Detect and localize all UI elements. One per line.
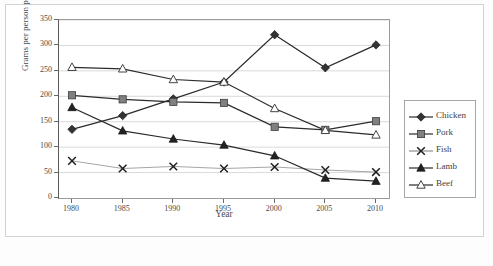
plot-area — [58, 19, 390, 199]
legend-label: Beef — [434, 178, 453, 188]
y-axis-tick-label: 250 — [20, 66, 52, 74]
legend-label: Fish — [434, 144, 452, 154]
y-axis-tick-label: 100 — [20, 142, 52, 150]
open-triangle-icon — [408, 177, 434, 189]
legend-item-fish[interactable]: Fish — [408, 140, 472, 157]
y-axis-tick-label: 300 — [20, 40, 52, 48]
chart-plot-svg — [59, 20, 389, 198]
x-axis-tick-mark — [172, 199, 173, 203]
y-axis-tick-label: 150 — [20, 117, 52, 125]
y-axis-tick-label: 350 — [20, 15, 52, 23]
x-axis-tick-mark — [223, 199, 224, 203]
filled-diamond-icon — [408, 109, 434, 121]
chart-figure: Grams per person per week 05010015020025… — [0, 0, 493, 266]
cross-x-icon — [408, 143, 434, 155]
x-axis-tick-mark — [122, 199, 123, 203]
legend-item-pork[interactable]: Pork — [408, 123, 472, 140]
legend-label: Chicken — [434, 110, 466, 120]
legend-label: Lamb — [434, 161, 457, 171]
filled-triangle-icon — [408, 160, 434, 172]
x-axis-tick-mark — [274, 199, 275, 203]
legend-item-lamb[interactable]: Lamb — [408, 157, 472, 174]
y-axis-tick-label: 0 — [20, 193, 52, 201]
y-axis-tick-label: 200 — [20, 91, 52, 99]
y-axis-tick-label: 50 — [20, 168, 52, 176]
chart-legend: ChickenPorkFishLambBeef — [404, 100, 476, 198]
y-axis-title: Grams per person per week — [20, 0, 30, 71]
filled-square-icon — [408, 126, 434, 138]
x-axis-tick-mark — [324, 199, 325, 203]
x-axis-tick-mark — [71, 199, 72, 203]
legend-label: Pork — [434, 127, 453, 137]
x-axis-title: Year — [58, 209, 390, 219]
legend-item-chicken[interactable]: Chicken — [408, 106, 472, 123]
legend-item-beef[interactable]: Beef — [408, 174, 472, 191]
x-axis-tick-mark — [375, 199, 376, 203]
